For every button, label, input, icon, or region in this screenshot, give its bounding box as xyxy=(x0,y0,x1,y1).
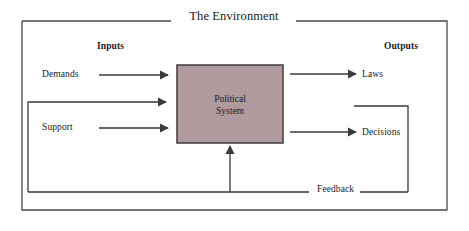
political-system-label: Political System xyxy=(214,94,246,118)
diagram-title: The Environment xyxy=(184,10,283,23)
political-system-label-line2: System xyxy=(216,106,244,116)
feedback-output-path xyxy=(354,106,408,192)
input-label-demands: Demands xyxy=(42,70,79,80)
input-label-support: Support xyxy=(42,123,73,133)
output-label-laws: Laws xyxy=(362,70,383,80)
outputs-heading: Outputs xyxy=(384,42,418,52)
inputs-heading: Inputs xyxy=(97,42,124,52)
output-label-decisions: Decisions xyxy=(362,128,400,138)
diagram-canvas: The Environment Inputs Outputs Demands S… xyxy=(0,0,469,231)
feedback-label: Feedback xyxy=(312,185,359,195)
feedback-input-arrow xyxy=(28,102,166,192)
political-system-label-line1: Political xyxy=(214,94,246,104)
